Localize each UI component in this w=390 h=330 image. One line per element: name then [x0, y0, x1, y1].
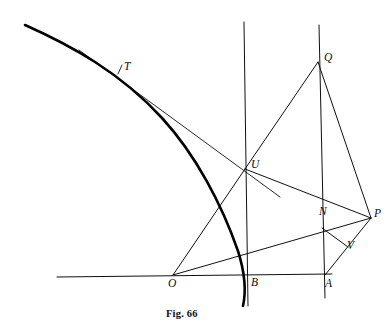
point-label-N: N	[319, 206, 327, 218]
point-label-V: V	[347, 240, 354, 252]
baseline-horizontal	[57, 274, 332, 277]
point-label-A: A	[325, 278, 332, 290]
chord-U-P	[245, 169, 371, 218]
chord-N-V	[322, 228, 348, 247]
vertical-through-Q-N-A	[319, 25, 325, 298]
point-label-P: P	[374, 208, 381, 220]
chord-Q-P	[318, 62, 371, 218]
point-label-T: T	[124, 61, 130, 73]
point-label-Q: Q	[324, 52, 332, 64]
chord-U-Q	[245, 62, 318, 169]
point-label-U: U	[251, 159, 259, 171]
point-label-B: B	[251, 277, 258, 289]
figure-container: T Q U N P V O B A Fig. 66	[0, 0, 390, 330]
line-segments-group	[57, 22, 371, 306]
figure-caption: Fig. 66	[166, 308, 198, 319]
tick-at-T	[118, 65, 122, 74]
point-label-O: O	[168, 278, 176, 290]
vertical-through-U-B	[244, 22, 248, 306]
chord-O-N-P	[173, 218, 371, 275]
